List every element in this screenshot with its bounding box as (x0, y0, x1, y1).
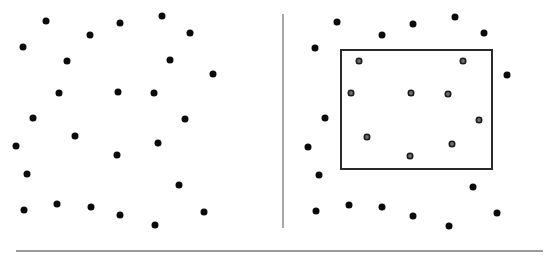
scatter-point (151, 90, 158, 97)
scatter-point (379, 32, 386, 39)
diagram-canvas (0, 0, 547, 270)
scatter-point (167, 57, 174, 64)
scatter-point (72, 133, 79, 140)
scatter-point (316, 172, 323, 179)
selected-scatter-point (407, 153, 414, 160)
selected-scatter-point (364, 134, 371, 141)
scatter-point (117, 20, 124, 27)
scatter-point (494, 210, 501, 217)
scatter-point (481, 30, 488, 37)
scatter-point (152, 222, 159, 229)
scatter-point (322, 115, 329, 122)
selected-scatter-point (449, 141, 456, 148)
scatter-point (334, 19, 341, 26)
scatter-point (54, 201, 61, 208)
panel-divider (282, 14, 284, 228)
scatter-point (346, 202, 353, 209)
scatter-point (305, 144, 312, 151)
scatter-point (176, 182, 183, 189)
baseline-rule (16, 250, 543, 252)
scatter-point (43, 18, 50, 25)
scatter-point (117, 212, 124, 219)
scatter-point (20, 44, 27, 51)
scatter-point (470, 184, 477, 191)
scatter-point (446, 223, 453, 230)
selected-scatter-point (408, 90, 415, 97)
scatter-point (201, 209, 208, 216)
scatter-point (159, 13, 166, 20)
scatter-point (88, 204, 95, 211)
scatter-point (210, 71, 217, 78)
scatter-point (87, 32, 94, 39)
scatter-point (504, 72, 511, 79)
scatter-point (13, 143, 20, 150)
scatter-point (312, 45, 319, 52)
scatter-point (410, 213, 417, 220)
scatter-point (21, 207, 28, 214)
selection-box (340, 49, 493, 170)
selected-scatter-point (348, 90, 355, 97)
selected-scatter-point (476, 117, 483, 124)
scatter-point (56, 90, 63, 97)
scatter-point (187, 30, 194, 37)
selected-scatter-point (356, 58, 363, 65)
scatter-point (379, 204, 386, 211)
scatter-point (313, 208, 320, 215)
scatter-point (115, 89, 122, 96)
scatter-point (452, 14, 459, 21)
scatter-point (182, 116, 189, 123)
selected-scatter-point (445, 91, 452, 98)
scatter-point (410, 21, 417, 28)
scatter-point (114, 152, 121, 159)
scatter-point (155, 140, 162, 147)
scatter-point (64, 58, 71, 65)
selected-scatter-point (460, 58, 467, 65)
scatter-point (24, 171, 31, 178)
scatter-point (30, 115, 37, 122)
